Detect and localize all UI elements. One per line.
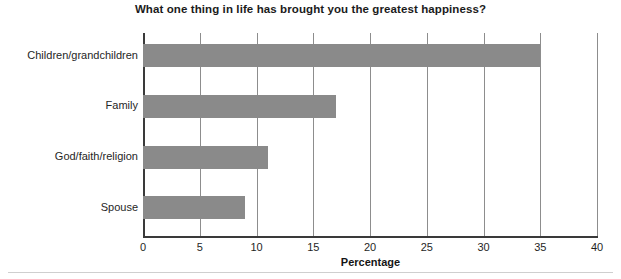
bar-series (143, 33, 597, 236)
bar-row (143, 33, 597, 84)
bar-0 (143, 44, 540, 67)
x-tick-label-20: 20 (350, 241, 390, 253)
x-tick-label-30: 30 (464, 241, 504, 253)
x-axis-line (143, 236, 598, 238)
bar-2 (143, 146, 268, 169)
y-axis-tick-labels: Children/grandchildrenFamilyGod/faith/re… (0, 33, 138, 236)
x-tick-label-40: 40 (577, 241, 617, 253)
x-tick-label-25: 25 (407, 241, 447, 253)
bar-row (143, 84, 597, 135)
x-tick-label-15: 15 (293, 241, 333, 253)
y-tick-label-1: Family (0, 99, 138, 111)
x-axis-tick-labels: 0510152025303540 (0, 241, 621, 257)
x-tick-label-35: 35 (520, 241, 560, 253)
bar-1 (143, 95, 336, 118)
chart-figure: What one thing in life has brought you t… (0, 0, 621, 279)
bar-row (143, 135, 597, 186)
x-axis-title: Percentage (143, 256, 598, 268)
footer-divider (8, 272, 613, 273)
y-tick-label-3: Spouse (0, 201, 138, 213)
x-tick-label-10: 10 (237, 241, 277, 253)
plot-area (143, 33, 597, 236)
bar-3 (143, 196, 245, 219)
bar-row (143, 185, 597, 236)
chart-title: What one thing in life has brought you t… (0, 3, 621, 15)
y-tick-label-2: God/faith/religion (0, 150, 138, 162)
gridline-40 (597, 33, 598, 236)
x-tick-label-0: 0 (123, 241, 163, 253)
y-tick-label-0: Children/grandchildren (0, 49, 138, 61)
x-tick-label-5: 5 (180, 241, 220, 253)
